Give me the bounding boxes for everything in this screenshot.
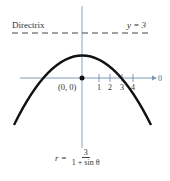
directrix-label: Directrix — [12, 20, 44, 30]
origin-label: (0, 0) — [58, 82, 76, 92]
polar-equation: r = 3 1 + sin θ — [55, 148, 102, 168]
tick-label-1: 1 — [97, 83, 101, 92]
arrow-right-icon — [152, 76, 157, 81]
formula-denominator: 1 + sin θ — [70, 158, 102, 168]
formula-numerator: 3 — [82, 148, 90, 158]
tick-label-2: 2 — [108, 83, 112, 92]
origin-point — [80, 76, 85, 81]
tick-label-4: 4 — [131, 83, 135, 92]
formula-lhs: r = — [55, 153, 67, 163]
directrix-equation: y = 3 — [127, 20, 146, 30]
tick-label-3: 3 — [120, 83, 124, 92]
formula-fraction: 3 1 + sin θ — [70, 148, 102, 168]
polar-axis-label: 0 — [158, 74, 162, 83]
